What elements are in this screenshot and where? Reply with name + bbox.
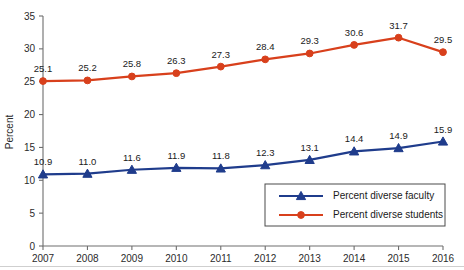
x-tick-label: 2009 [121,253,144,264]
data-point-label: 11.8 [212,150,230,161]
line-chart-figure: 05101520253035 2007200820092010201120122… [0,0,464,270]
chart-canvas: 05101520253035 2007200820092010201120122… [0,0,464,270]
x-tick-label: 2011 [210,253,232,264]
data-point-marker [40,78,47,85]
data-point-marker [351,42,358,49]
x-tick-label: 2012 [254,253,277,264]
data-point-label: 11.0 [79,156,97,167]
data-point-label: 10.9 [34,156,53,167]
data-point-marker [84,77,91,84]
data-point-marker [262,56,269,63]
data-point-marker [217,63,224,70]
data-point-label: 14.4 [345,133,364,144]
y-tick-label: 20 [24,109,36,120]
legend: Percent diverse facultyPercent diverse s… [265,184,445,226]
data-point-label: 31.7 [389,20,408,31]
legend-marker-circle [298,212,305,219]
data-point-label: 29.5 [434,34,453,45]
data-point-label: 11.9 [167,150,185,161]
y-axis-title: Percent [4,115,15,150]
data-point-label: 25.2 [78,62,97,73]
x-tick-label: 2007 [32,253,55,264]
data-point-label: 12.3 [256,147,275,158]
x-tick-label: 2016 [432,253,455,264]
data-point-label: 11.6 [123,152,141,163]
data-point-label: 26.3 [167,55,186,66]
data-point-label: 15.9 [434,124,453,135]
data-point-marker [440,49,447,56]
y-tick-label: 25 [24,76,36,87]
legend-label: Percent diverse students [333,209,443,220]
data-point-marker [173,70,180,77]
data-point-label: 25.1 [34,63,53,74]
data-point-marker [395,34,402,41]
y-tick-label: 10 [24,175,36,186]
legend-label: Percent diverse faculty [333,190,434,201]
x-tick-label: 2013 [299,253,322,264]
data-point-marker [306,50,313,57]
y-tick-label: 0 [29,241,35,252]
data-point-label: 28.4 [256,41,275,52]
data-point-label: 14.9 [389,130,408,141]
data-point-label: 30.6 [345,27,364,38]
y-tick-label: 5 [29,208,35,219]
y-tick-label: 30 [24,43,36,54]
data-point-label: 27.3 [212,49,231,60]
data-point-label: 29.3 [300,35,319,46]
x-tick-label: 2008 [76,253,99,264]
y-tick-label: 15 [24,142,36,153]
data-point-label: 13.1 [300,142,319,153]
y-tick-label: 35 [24,11,36,22]
x-tick-label: 2014 [343,253,366,264]
x-tick-label: 2010 [165,253,188,264]
data-point-label: 25.8 [123,58,142,69]
data-point-marker [128,73,135,80]
x-tick-label: 2015 [387,253,410,264]
